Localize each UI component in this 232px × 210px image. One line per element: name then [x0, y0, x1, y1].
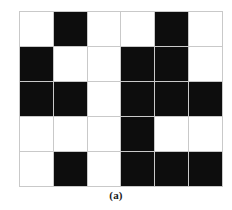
grid-cell-r1-c4 — [121, 12, 154, 46]
grid-cell-r2-c1 — [20, 47, 53, 81]
grid-cell-r3-c1 — [20, 82, 53, 116]
figure-caption: (a) — [0, 189, 232, 201]
grid-cell-r4-c3 — [88, 117, 121, 151]
grid-cell-r4-c4 — [121, 117, 154, 151]
grid-cell-r1-c5 — [155, 12, 188, 46]
grid-cell-r3-c6 — [189, 82, 222, 116]
grid-cell-r3-c5 — [155, 82, 188, 116]
grid-cell-r5-c5 — [155, 152, 188, 186]
grid-cell-r5-c2 — [54, 152, 87, 186]
grid-cell-r4-c2 — [54, 117, 87, 151]
grid-cell-r3-c2 — [54, 82, 87, 116]
grid-cell-r2-c3 — [88, 47, 121, 81]
grid-cell-r2-c5 — [155, 47, 188, 81]
grid-cell-r5-c6 — [189, 152, 222, 186]
grid-cell-r3-c3 — [88, 82, 121, 116]
figure-container: (a) — [0, 0, 232, 210]
grid-cell-r4-c6 — [189, 117, 222, 151]
grid-cell-r5-c1 — [20, 152, 53, 186]
grid-cell-r3-c4 — [121, 82, 154, 116]
grid-cell-r2-c4 — [121, 47, 154, 81]
grid-cell-r1-c3 — [88, 12, 121, 46]
grid-cell-r1-c6 — [189, 12, 222, 46]
grid-cell-r1-c2 — [54, 12, 87, 46]
grid-cell-r1-c1 — [20, 12, 53, 46]
grid-cell-r2-c6 — [189, 47, 222, 81]
grid-cell-r4-c1 — [20, 117, 53, 151]
grid-cell-r5-c3 — [88, 152, 121, 186]
grid-cell-r5-c4 — [121, 152, 154, 186]
grid-cell-r2-c2 — [54, 47, 87, 81]
grid-cell-r4-c5 — [155, 117, 188, 151]
binary-grid — [19, 11, 223, 187]
binary-grid-wrapper — [19, 11, 223, 187]
